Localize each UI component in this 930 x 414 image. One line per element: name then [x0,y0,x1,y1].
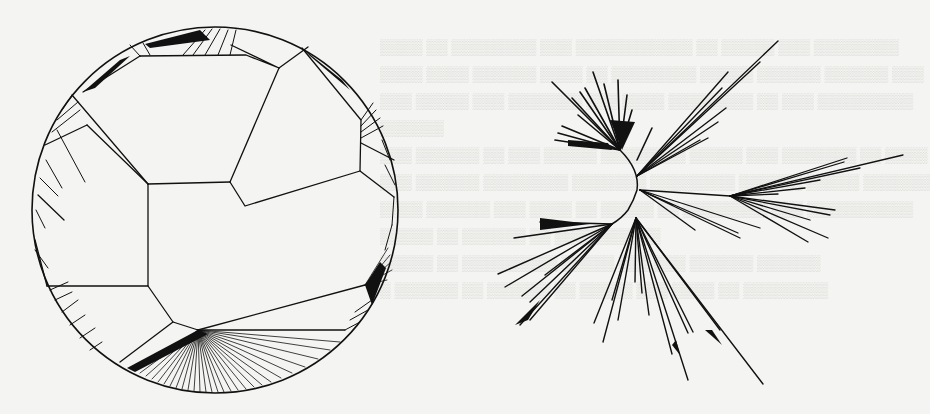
disk-internal-cells [35,45,394,362]
figure-canvas [0,0,930,414]
tree-trunk [612,150,637,224]
branch-cluster-dark-wedge-6 [705,330,722,345]
branch-cluster-right [640,155,903,242]
radial-tree-figure [498,41,903,384]
branch-cluster-lower [594,218,763,384]
paper-figure-page: ▒▒▒▒ ▒▒ ▒▒▒▒▒▒▒▒ ▒▒▒ ▒▒▒▒▒▒▒▒▒▒▒ ▒▒ ▒▒▒▒… [0,0,930,414]
hyperbolic-disk-figure [32,27,398,393]
disk-bottom-ray-fan [140,330,340,392]
branch-cluster-lower-left [498,222,612,325]
branch-cluster-upper-right [637,41,778,176]
branch-cluster-dark-wedge-5 [672,340,680,355]
